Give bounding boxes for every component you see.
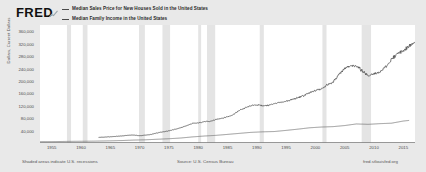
y-tick-label: 160,000: [18, 91, 34, 96]
y-tick-label: 320,000: [18, 41, 34, 46]
y-tick-label: 240,000: [18, 66, 34, 71]
chart-footer: Shaded areas indicate U.S. recessions So…: [0, 157, 426, 172]
y-tick-label: 200,000: [18, 78, 34, 83]
recession-band: [67, 25, 71, 143]
plot-svg: [40, 25, 415, 143]
legend-label-sales-price: Median Sales Price for New Houses Sold i…: [72, 6, 208, 12]
recession-band: [322, 25, 326, 143]
x-tick-label: 1960: [76, 145, 86, 150]
plot-area: [40, 25, 415, 143]
y-tick-label: 80,000: [21, 116, 34, 121]
footer-url[interactable]: fred.stlouisfed.org: [363, 159, 398, 165]
recession-band: [83, 25, 88, 143]
x-tick-label: 1955: [47, 145, 57, 150]
recession-band: [198, 25, 201, 143]
x-tick-label: 1990: [252, 145, 262, 150]
x-tick-label: 1985: [223, 145, 233, 150]
x-tick-label: 1975: [164, 145, 174, 150]
recession-band: [207, 25, 215, 143]
fred-chart-card: FRED Median Sales Price for New Houses S…: [0, 0, 426, 172]
x-tick-label: 1995: [281, 145, 291, 150]
x-tick-label: 2010: [369, 145, 379, 150]
y-tick-label: 280,000: [18, 54, 34, 59]
line-chart-icon: [49, 10, 58, 18]
legend-label-family-income: Median Family Income in the United State…: [72, 16, 167, 22]
footer-recessions-note: Shaded areas indicate U.S. recessions: [22, 159, 98, 165]
chart-header: FRED Median Sales Price for New Houses S…: [0, 0, 426, 25]
recession-band: [162, 25, 170, 143]
line-swatch-icon: [62, 9, 69, 10]
x-tick-label: 1980: [193, 145, 203, 150]
x-axis-tick-labels: 1955196019651970197519801985199019952000…: [40, 145, 415, 155]
x-tick-label: 2015: [399, 145, 409, 150]
recession-band: [362, 25, 371, 143]
chart-legend: Median Sales Price for New Houses Sold i…: [62, 5, 402, 25]
recession-band: [139, 25, 145, 143]
x-tick-label: 1965: [106, 145, 116, 150]
y-tick-label: 40,000: [21, 128, 34, 133]
x-tick-label: 2000: [311, 145, 321, 150]
footer-source: Source: U.S. Census Bureau: [177, 159, 233, 165]
x-tick-label: 1970: [135, 145, 145, 150]
legend-item-sales-price[interactable]: Median Sales Price for New Houses Sold i…: [62, 5, 402, 13]
x-tick-label: 2005: [340, 145, 350, 150]
y-axis-tick-labels: 40,00080,000120,000160,000200,000240,000…: [0, 25, 37, 143]
recession-band: [260, 25, 264, 143]
fred-logo[interactable]: FRED: [16, 6, 53, 19]
line-swatch-icon: [62, 19, 69, 20]
y-tick-label: 120,000: [18, 103, 34, 108]
y-tick-label: 360,000: [18, 29, 34, 34]
legend-item-family-income[interactable]: Median Family Income in the United State…: [62, 15, 402, 23]
